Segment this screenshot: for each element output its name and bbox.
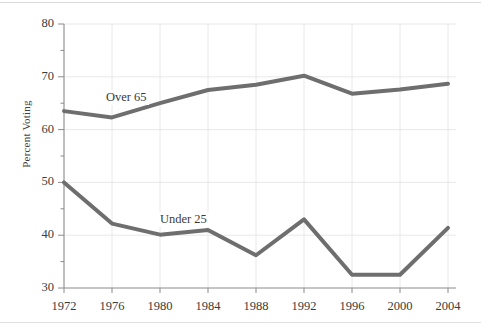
axis-lines: [64, 24, 456, 288]
x-tick-label-1980: 1980: [136, 300, 184, 313]
x-tick-label-1992: 1992: [280, 300, 328, 313]
horizontal-gridlines: [64, 24, 456, 235]
y-tick-label-70: 70: [28, 70, 54, 83]
y-tick-label-50: 50: [28, 175, 54, 188]
x-tick-label-1972: 1972: [40, 300, 88, 313]
vertical-gridlines: [64, 24, 448, 288]
x-tick-label-2004: 2004: [424, 300, 472, 313]
series-label-under-25: Under 25: [158, 212, 209, 227]
x-tick-label-1976: 1976: [88, 300, 136, 313]
y-tick-label-60: 60: [28, 123, 54, 136]
y-tick-label-30: 30: [28, 281, 54, 294]
y-tick-label-80: 80: [28, 17, 54, 30]
x-tick-label-1988: 1988: [232, 300, 280, 313]
series-label-over-65: Over 65: [104, 90, 149, 105]
x-tick-label-2000: 2000: [376, 300, 424, 313]
x-tick-label-1984: 1984: [184, 300, 232, 313]
y-tick-label-40: 40: [28, 228, 54, 241]
chart-figure: Percent Voting 304050607080 197219761980…: [0, 0, 481, 336]
x-tick-label-1996: 1996: [328, 300, 376, 313]
plot-area: [0, 0, 481, 336]
